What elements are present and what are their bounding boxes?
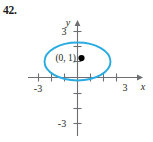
center-point-marker (78, 55, 84, 61)
y-tick-label-3: 3 (62, 26, 67, 37)
x-axis-label: x (140, 81, 146, 92)
y-axis-arrow-icon (75, 20, 81, 26)
y-tick-label-neg3: -3 (58, 118, 66, 129)
x-tick-label-neg3: -3 (34, 83, 42, 94)
coordinate-plane-plot: y x 3 -3 -3 3 (0, 1) (0, 0, 153, 142)
figure-container: 42. y x 3 -3 -3 3 (0 (0, 0, 153, 142)
x-axis-arrow-icon (137, 75, 143, 81)
center-point-label: (0, 1) (55, 53, 76, 64)
x-tick-label-3: 3 (123, 82, 128, 93)
